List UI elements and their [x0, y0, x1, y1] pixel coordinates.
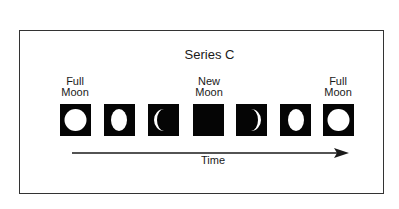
label-line-2: Moon	[308, 87, 368, 98]
waning-crescent-moon-icon	[148, 104, 179, 136]
label-first-full-moon: Full Moon	[45, 76, 105, 98]
time-axis-label: Time	[183, 155, 243, 166]
label-line-2: Moon	[45, 87, 105, 98]
diagram-title: Series C	[0, 48, 399, 62]
label-line-2: Moon	[179, 87, 239, 98]
waxing-crescent-moon-icon	[236, 104, 267, 136]
new-moon-icon	[193, 104, 224, 136]
full-moon-icon	[60, 104, 91, 136]
full-moon-icon	[323, 104, 354, 136]
waning-gibbous-moon-icon	[104, 104, 135, 136]
label-last-full-moon: Full Moon	[308, 76, 368, 98]
waxing-gibbous-moon-icon	[280, 104, 311, 136]
label-new-moon: New Moon	[179, 76, 239, 98]
